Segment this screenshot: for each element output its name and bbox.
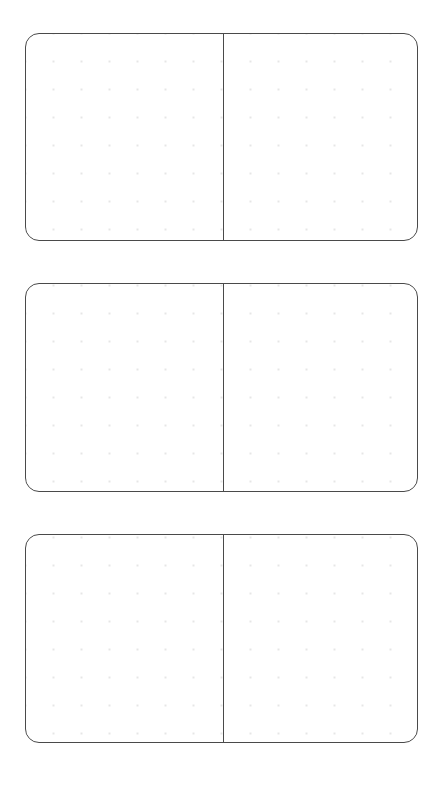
spread-card[interactable] xyxy=(25,283,418,492)
page-panel-left[interactable] xyxy=(26,34,223,240)
page-panel-left[interactable] xyxy=(26,535,223,742)
page-sheet xyxy=(0,0,443,797)
spine-divider xyxy=(223,34,224,240)
page-panel-left[interactable] xyxy=(26,284,223,491)
page-panel-right[interactable] xyxy=(224,34,417,240)
page-panel-right[interactable] xyxy=(224,535,417,742)
spine-divider xyxy=(223,535,224,742)
page-panel-right[interactable] xyxy=(224,284,417,491)
spread-card[interactable] xyxy=(25,33,418,241)
spine-divider xyxy=(223,284,224,491)
spread-card[interactable] xyxy=(25,534,418,743)
